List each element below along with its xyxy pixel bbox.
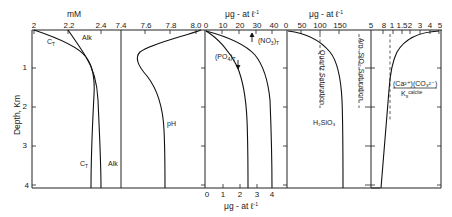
calcite-ratio-numerator: (Ca²⁺)(CO₃²⁻) [393,80,437,88]
calcite-tick-5: 5 [438,21,443,30]
silica-unit: μg - at ℓ-1 [309,9,343,19]
panel-calcite: 8 1 1.5 2 3 4 5 (Ca²⁺)(CO₃²⁻) Kscalcite [371,21,443,188]
ph-tick-7.8: 7.8 [165,21,177,30]
nutrients-bottom-tick-2: 2 [238,190,243,199]
alk-label-top: Alk [82,34,92,41]
calcite-tick-4: 4 [428,21,433,30]
nutrients-bottom-tick-3: 3 [255,190,260,199]
panel-silica: μg - at ℓ-1 0 50 100 150 Quartz Saturati… [283,9,371,188]
panel-nutrients: μg - at ℓ-1 0 10 20 30 40 0 1 2 3 4 μg -… [201,9,287,211]
carbonate-tick-2.4: 2.4 [95,21,107,30]
nutrients-top-unit: μg - at ℓ-1 [225,9,259,19]
panel-ph: 7.4 7.6 7.8 8.0 pH [115,21,203,188]
ph-label: pH [167,120,176,128]
calcite-tick-1.5: 1.5 [396,21,408,30]
calcite-tick-2: 2 [408,21,413,30]
nutrients-bottom-tick-1: 1 [221,190,226,199]
alk-label-bottom: Alk [108,160,118,167]
nutrients-bottom-unit: μg - at ℓ-1 [224,201,258,211]
y-tick-4: 4 [25,181,30,190]
nutrients-top-tick-10: 10 [219,21,228,30]
calcite-saturation-curve [381,31,439,188]
panel-am-silica: 5 Am. SiO₂ Saturation [358,21,380,188]
y-tick-3: 3 [23,141,28,150]
y-tick-1: 1 [23,63,28,72]
ct-label-top: CT [47,38,55,47]
quartz-saturation-label: Quartz Saturation [318,50,326,105]
ct-label-bottom: CT [80,160,88,169]
calcite-ratio-denominator: Kscalcite [401,89,423,99]
silica-tick-100: 100 [313,21,327,30]
ph-curve [137,30,201,188]
panel-carbonate: mM 2 2.2 2.4 CT Alk CT Alk [32,9,118,188]
am-silica-tick-5: 5 [369,21,374,30]
nutrients-bottom-tick-4: 4 [270,190,275,199]
po4-label: (PO4)T [215,53,236,62]
calcite-tick-1: 1 [390,21,395,30]
calcite-tick-8: 8 [382,21,387,30]
carbonate-tick-2.2: 2.2 [63,21,75,30]
am-sio2-saturation-label: Am. SiO₂ Saturation [358,38,365,101]
h2sio3-curve [288,31,343,188]
nutrients-top-tick-0: 0 [204,21,209,30]
silica-tick-50: 50 [298,21,307,30]
ph-tick-7.6: 7.6 [140,21,152,30]
h2sio3-label: H₂SiO₃ [313,119,335,126]
nutrients-top-tick-20: 20 [236,21,245,30]
nutrients-bottom-tick-0: 0 [205,190,210,199]
ph-tick-8.0: 8.0 [190,21,202,30]
nutrients-top-tick-30: 30 [253,21,262,30]
y-axis-label: Depth, Km [12,95,22,135]
carbonate-unit: mM [67,9,81,19]
nutrients-top-tick-40: 40 [270,21,279,30]
silica-tick-0: 0 [284,21,289,30]
depth-profile-chart: Depth, Km 1 2 3 4 mM 2 2.2 2.4 CT Alk CT… [0,0,452,217]
no3-label: (NO3)T [258,37,279,46]
no3-arrow-icon [250,33,254,42]
y-tick-2: 2 [23,102,28,111]
carbonate-tick-2: 2 [32,21,37,30]
silica-tick-150: 150 [333,21,347,30]
calcite-tick-3: 3 [418,21,423,30]
ph-tick-7.4: 7.4 [115,21,127,30]
